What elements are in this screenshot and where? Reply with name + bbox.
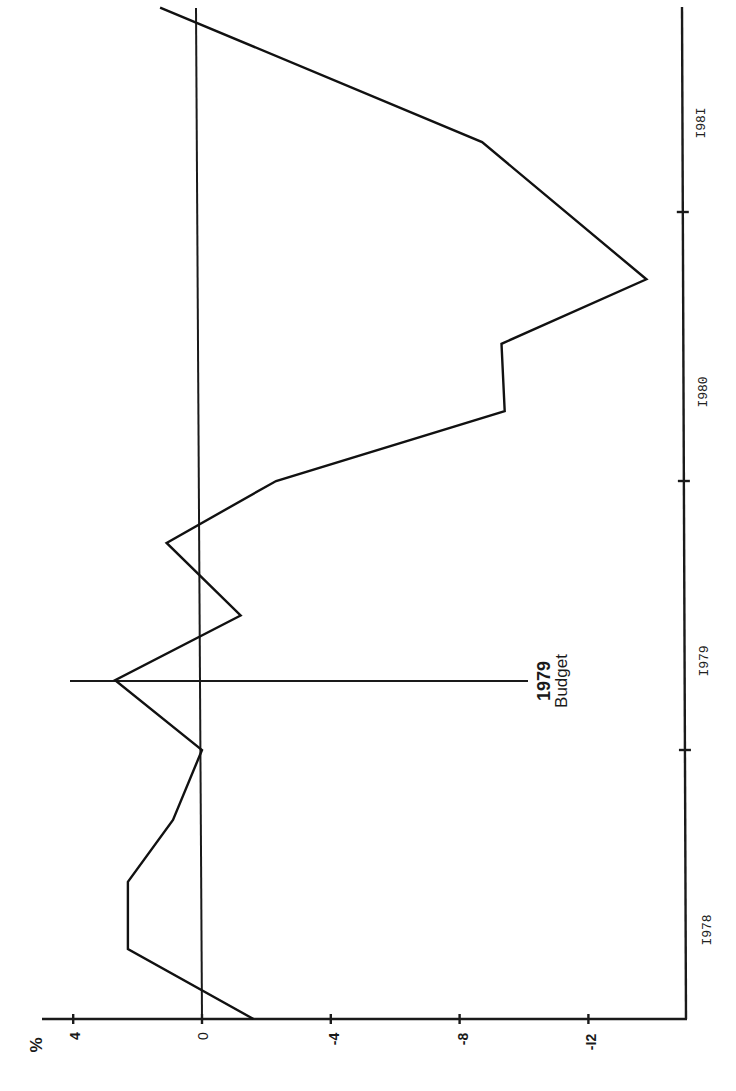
budget-annotation-year: 1979: [534, 661, 554, 701]
data-series-line: [115, 8, 646, 1019]
y-tick-label: -8: [455, 1033, 471, 1046]
zero-reference-line: [196, 8, 202, 1019]
x-tick-label-1979: I979: [697, 645, 712, 676]
y-tick-label: -I2: [583, 1034, 599, 1051]
y-tick-label: -4: [326, 1033, 342, 1046]
x-tick-label-1981: I98I: [694, 107, 709, 138]
x-tick-label-1978: I978: [700, 914, 715, 945]
time-axis: [682, 7, 686, 1019]
line-chart: % 4 0 -4 -8 -I2 I978 I979 I980 I98I 1979…: [0, 0, 736, 1091]
y-tick-label: 0: [195, 1032, 211, 1040]
percent-axis-label: %: [27, 1037, 46, 1052]
budget-annotation-label: Budget: [552, 654, 571, 708]
y-tick-label: 4: [67, 1032, 83, 1040]
x-tick-label-1980: I980: [696, 376, 711, 407]
